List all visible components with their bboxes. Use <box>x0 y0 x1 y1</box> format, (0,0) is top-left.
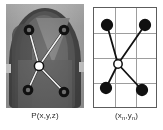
landmark-ring <box>34 61 43 70</box>
landmark-ring <box>137 85 148 96</box>
caption-subscript-n-1: n <box>122 115 125 121</box>
landmark-link-center-to-top-left <box>29 30 39 66</box>
world-coordinate-photo-panel <box>6 4 84 108</box>
landmark-marker-bottom-right[interactable] <box>137 85 148 96</box>
caption-subscript-n-2: n <box>132 115 135 121</box>
landmark-link-center-to-bottom-right <box>39 66 64 92</box>
landmark-marker-center[interactable] <box>114 60 122 68</box>
landmark-ring <box>140 20 151 31</box>
landmark-core <box>26 88 30 92</box>
landmark-marker-top-left[interactable] <box>102 20 113 31</box>
landmark-marker-center[interactable] <box>34 61 43 70</box>
landmark-ring <box>101 83 112 94</box>
caption-comma-y: ,y <box>125 111 131 120</box>
caption-close-paren: ) <box>135 111 138 120</box>
landmark-core <box>62 90 66 94</box>
landmark-core <box>116 62 120 66</box>
caption-image-coordinates: (xn,yn) <box>90 111 163 120</box>
landmark-link-center-to-top-right <box>118 25 145 64</box>
landmark-marker-bottom-right[interactable] <box>59 87 68 96</box>
landmark-marker-bottom-left[interactable] <box>23 85 32 94</box>
landmark-link-center-to-top-right <box>39 30 64 66</box>
image-coordinate-grid-panel <box>93 7 157 108</box>
figure-root: P(x,y,z) (xn,yn) <box>0 0 163 130</box>
landmark-marker-bottom-left[interactable] <box>101 83 112 94</box>
landmark-core <box>62 28 66 32</box>
caption-open-paren-x: (x <box>115 111 122 120</box>
landmark-marker-top-right[interactable] <box>59 25 68 34</box>
landmark-marker-top-right[interactable] <box>140 20 151 31</box>
landmark-ring <box>102 20 113 31</box>
world-landmark-overlay <box>6 4 84 108</box>
image-landmark-overlay <box>94 8 156 107</box>
landmark-core <box>27 28 31 32</box>
landmark-marker-top-left[interactable] <box>24 25 33 34</box>
caption-world-coordinates: P(x,y,z) <box>0 111 90 120</box>
